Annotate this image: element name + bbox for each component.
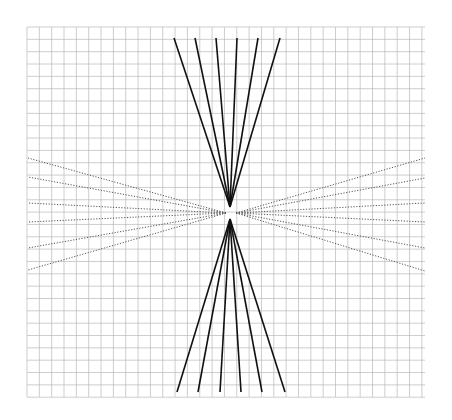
figure-canvas <box>0 0 452 420</box>
line-convergence-figure <box>0 0 452 420</box>
figure-background <box>0 0 452 420</box>
